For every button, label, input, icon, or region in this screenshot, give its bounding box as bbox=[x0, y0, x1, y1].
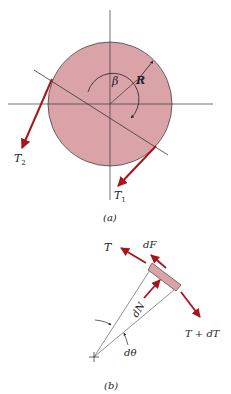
figure-a: β R T2 T1 (a) bbox=[8, 10, 213, 223]
caption-b: (b) bbox=[104, 380, 118, 391]
t2-arrow bbox=[22, 79, 52, 148]
angle-arrow-left bbox=[95, 320, 111, 325]
friction-label: dF bbox=[143, 239, 157, 250]
normal-label: dN bbox=[129, 299, 147, 319]
radius-label: R bbox=[135, 74, 145, 87]
angle-label: dθ bbox=[124, 347, 136, 358]
beta-label: β bbox=[111, 75, 118, 88]
tension-plus-label: T + dT bbox=[185, 328, 221, 339]
tension-plus-arrow bbox=[181, 292, 200, 317]
tension-label: T bbox=[104, 241, 113, 254]
tension-arrow bbox=[121, 248, 146, 263]
t1-label: T1 bbox=[114, 189, 126, 204]
figure-b: T dF dN T + dT dθ (b) bbox=[89, 239, 221, 391]
belt-friction-diagram: β R T2 T1 (a) T dF dN T + dT dθ (b) bbox=[0, 0, 231, 394]
normal-arrow bbox=[144, 280, 160, 298]
t2-label: T2 bbox=[14, 152, 26, 167]
angle-arrow-right bbox=[124, 333, 128, 345]
caption-a: (a) bbox=[103, 212, 117, 223]
